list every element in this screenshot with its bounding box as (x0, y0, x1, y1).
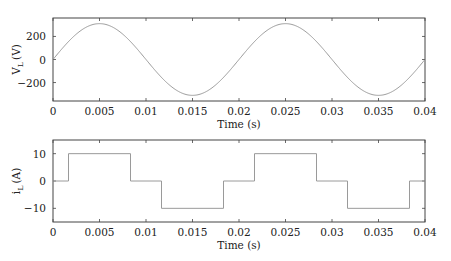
x-tick-label: 0.04 (413, 226, 437, 238)
x-tick-label: 0 (50, 105, 57, 117)
x-tick-label: 0.025 (270, 105, 300, 117)
x-tick-label: 0.01 (134, 105, 157, 117)
voltage-line (53, 24, 425, 96)
x-tick-label: 0.035 (363, 226, 393, 238)
chart-figure: 00.0050.010.0150.020.0250.030.0350.04 20… (0, 0, 451, 261)
y-tick-label: 0 (39, 54, 46, 66)
x-tick-label: 0.01 (134, 226, 157, 238)
y-tick-label: 200 (26, 30, 46, 42)
current-line (53, 154, 425, 209)
x-tick-label: 0.035 (363, 105, 393, 117)
current-x-axis-label: Time (s) (217, 239, 260, 251)
x-tick-label: 0.005 (84, 226, 114, 238)
x-tick-label: 0.015 (177, 105, 207, 117)
x-tick-label: 0.02 (227, 226, 250, 238)
current-x-ticks: 00.0050.010.0150.020.0250.030.0350.04 (50, 140, 437, 238)
voltage-y-axis-label: VL(V) (10, 44, 25, 76)
x-tick-label: 0.005 (84, 105, 114, 117)
x-tick-label: 0 (50, 226, 57, 238)
y-tick-label: 10 (33, 148, 46, 160)
y-tick-label: 0 (39, 175, 46, 187)
x-tick-label: 0.025 (270, 226, 300, 238)
current-y-axis-label: iL(A) (10, 168, 25, 194)
voltage-x-axis-label: Time (s) (217, 118, 260, 130)
x-tick-label: 0.02 (227, 105, 250, 117)
y-tick-label: −10 (24, 202, 46, 214)
voltage-x-ticks: 00.0050.010.0150.020.0250.030.0350.04 (50, 18, 437, 117)
y-tick-label: −200 (17, 77, 46, 89)
voltage-plot: 00.0050.010.0150.020.0250.030.0350.04 20… (10, 18, 437, 130)
x-tick-label: 0.03 (320, 105, 343, 117)
current-plot: 00.0050.010.0150.020.0250.030.0350.04 10… (10, 140, 437, 251)
x-tick-label: 0.04 (413, 105, 437, 117)
x-tick-label: 0.03 (320, 226, 343, 238)
x-tick-label: 0.015 (177, 226, 207, 238)
